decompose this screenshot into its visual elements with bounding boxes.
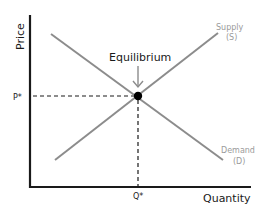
supply-label: Supply	[216, 23, 244, 32]
arrow-down-icon	[133, 66, 143, 87]
x-axis-label: Quantity	[203, 192, 251, 205]
supply-demand-diagram: Price Quantity P* Q* Equilibrium Supply …	[0, 0, 268, 215]
demand-label: Demand	[221, 146, 255, 155]
y-axis-label: Price	[14, 23, 27, 50]
equilibrium-point	[134, 92, 142, 100]
p-star-label: P*	[13, 93, 22, 102]
supply-abbr: (S)	[226, 33, 237, 42]
equilibrium-label: Equilibrium	[109, 51, 171, 64]
q-star-label: Q*	[133, 192, 143, 201]
demand-abbr: (D)	[233, 157, 245, 166]
